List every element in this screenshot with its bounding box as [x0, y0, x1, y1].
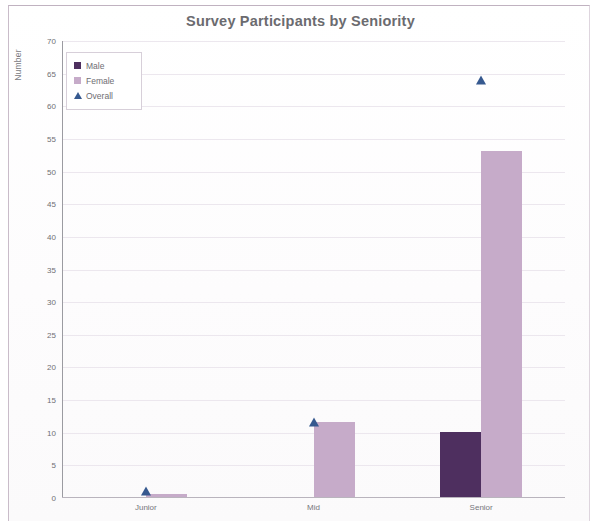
- bar-female-junior[interactable]: [146, 494, 187, 497]
- y-axis-tick-label: 20: [30, 363, 56, 372]
- y-axis-tick-label: 5: [30, 461, 56, 470]
- overall-marker-senior[interactable]: [476, 76, 486, 85]
- legend-item-label: Overall: [86, 91, 113, 101]
- y-axis-tick-label: 45: [30, 200, 56, 209]
- overall-marker-junior[interactable]: [141, 487, 151, 496]
- x-axis-label-junior: Junior: [135, 503, 157, 512]
- legend-item-label: Female: [86, 76, 114, 86]
- x-axis-label-mid: Mid: [307, 503, 320, 512]
- square-swatch-icon: [74, 77, 81, 84]
- gridline: [63, 498, 565, 499]
- bar-female-senior[interactable]: [481, 151, 522, 497]
- bar-male-senior[interactable]: [440, 432, 481, 497]
- x-axis-category-labels: JuniorMidSenior: [62, 503, 565, 519]
- x-axis-label-senior: Senior: [470, 503, 493, 512]
- y-axis-tick-labels: 0510152025303540455055606570: [28, 41, 56, 498]
- y-axis-tick-label: 40: [30, 232, 56, 241]
- legend-item-label: Male: [86, 61, 104, 71]
- chart-legend: Male Female Overall: [66, 52, 142, 110]
- y-axis-tick-label: 10: [30, 428, 56, 437]
- legend-item-male[interactable]: Male: [74, 58, 135, 73]
- y-axis-tick-label: 60: [30, 102, 56, 111]
- y-axis-tick-label: 55: [30, 134, 56, 143]
- chart-title: Survey Participants by Seniority: [0, 13, 601, 29]
- y-axis-tick-label: 50: [30, 167, 56, 176]
- y-axis-tick-label: 70: [30, 37, 56, 46]
- legend-item-female[interactable]: Female: [74, 73, 135, 88]
- square-swatch-icon: [74, 62, 81, 69]
- triangle-marker-icon: [74, 92, 82, 99]
- y-axis-title: Number: [13, 35, 23, 95]
- y-axis-tick-label: 65: [30, 69, 56, 78]
- y-axis-tick-label: 25: [30, 330, 56, 339]
- y-axis-tick-label: 35: [30, 265, 56, 274]
- bar-group: [273, 41, 355, 497]
- y-axis-tick-label: 0: [30, 494, 56, 503]
- y-axis-tick-label: 30: [30, 298, 56, 307]
- bar-group: [440, 41, 522, 497]
- overall-marker-mid[interactable]: [309, 417, 319, 426]
- bar-female-mid[interactable]: [314, 422, 355, 497]
- y-axis-tick-label: 15: [30, 396, 56, 405]
- legend-item-overall[interactable]: Overall: [74, 88, 135, 103]
